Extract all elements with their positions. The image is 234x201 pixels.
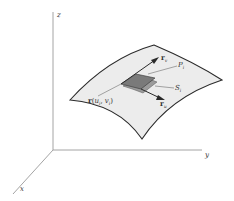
z-axis-label: z bbox=[56, 11, 61, 19]
surface-S bbox=[70, 45, 222, 139]
x-axis bbox=[13, 150, 53, 194]
parametric-surface-figure: z y x rv ru Pi Si r(ui, vi) bbox=[0, 0, 234, 201]
label-point-r-ui-vi: r(ui, vi) bbox=[88, 96, 113, 106]
x-axis-label: x bbox=[20, 185, 24, 193]
y-axis-label: y bbox=[204, 151, 210, 159]
